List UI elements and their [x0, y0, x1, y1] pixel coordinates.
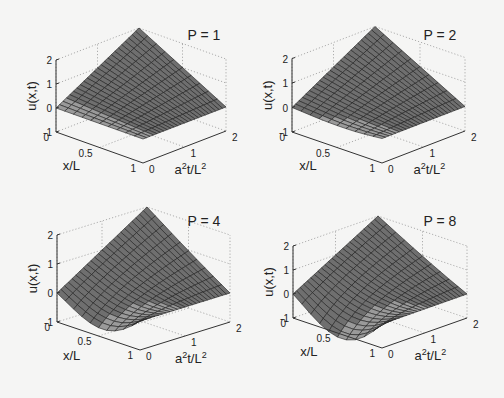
t-tick-label: 1 [430, 148, 436, 159]
z-tick-label: 1 [47, 259, 53, 270]
z-tick-label: 1 [46, 79, 52, 90]
x-tick-label: 1 [369, 348, 375, 359]
x-tick-label: 0.5 [316, 148, 330, 159]
z-tick-label: 2 [46, 55, 52, 66]
x-tick-label: 0 [279, 132, 285, 143]
z-tick-label: 1 [283, 265, 289, 276]
x-axis-label: x/L [63, 158, 80, 173]
panel-title: P = 4 [188, 213, 221, 229]
panel-title: P = 1 [188, 27, 221, 43]
x-axis-label: x/L [63, 348, 80, 363]
t-tick-label: 2 [473, 319, 479, 330]
z-tick-label: 2 [282, 54, 288, 65]
z-tick-label: 0 [46, 103, 52, 114]
t-tick-label: 0 [388, 349, 394, 360]
t-tick-label: 1 [191, 148, 197, 159]
x-tick-label: 1 [130, 163, 136, 174]
z-tick-label: 2 [47, 230, 53, 241]
t-tick-label: 2 [471, 132, 477, 143]
t-tick-label: 1 [191, 337, 197, 348]
z-tick-label: 0 [282, 103, 288, 114]
z-tick-label: 1 [282, 78, 288, 89]
z-tick-label: 0 [47, 288, 53, 299]
x-tick-label: 0.5 [317, 333, 331, 344]
z-axis-label: u(x,t) [25, 264, 40, 294]
t-tick-label: 0 [149, 164, 155, 175]
panel-title: P = 8 [424, 213, 457, 229]
panel-title: P = 2 [424, 27, 457, 43]
x-tick-label: 0.5 [78, 336, 92, 347]
x-tick-label: 0.5 [79, 148, 93, 159]
x-axis-label: x/L [300, 344, 317, 359]
figure: -101200.51012x/La2t/L2u(x,t)P = 1 -10120… [0, 0, 504, 398]
t-tick-label: 2 [236, 323, 242, 334]
z-axis-label: u(x,t) [261, 267, 276, 297]
t-tick-label: 1 [431, 334, 437, 345]
z-tick-label: 0 [283, 289, 289, 300]
x-tick-label: 1 [127, 350, 133, 361]
x-tick-label: 0 [43, 132, 49, 143]
x-tick-label: 0 [44, 322, 50, 333]
x-tick-label: 1 [369, 163, 375, 174]
z-axis-label: u(x,t) [260, 80, 275, 110]
figure-background [0, 0, 504, 398]
t-tick-label: 2 [232, 132, 238, 143]
z-tick-label: 2 [283, 241, 289, 252]
x-tick-label: 0 [280, 318, 286, 329]
t-tick-label: 0 [146, 351, 152, 362]
t-tick-label: 0 [388, 164, 394, 175]
x-axis-label: x/L [299, 158, 316, 173]
z-axis-label: u(x,t) [24, 81, 39, 111]
